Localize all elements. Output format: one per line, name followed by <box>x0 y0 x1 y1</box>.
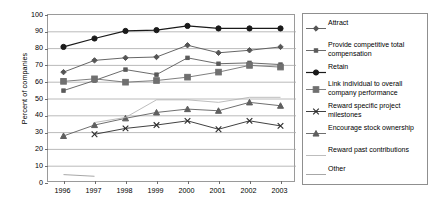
legend-item-label: Encourage stock ownership <box>327 124 414 133</box>
y-axis-tick-mark <box>45 116 48 117</box>
legend-item[interactable]: Reward past contributions <box>305 146 427 155</box>
data-point-marker <box>247 63 253 69</box>
y-axis-tick-label: 60 <box>21 78 43 85</box>
legend-item[interactable]: Provide competitive total compensation <box>305 41 427 58</box>
data-point-marker <box>62 89 65 92</box>
line-marker-icon <box>305 146 327 155</box>
y-axis-tick-label: 40 <box>21 111 43 118</box>
data-point-marker <box>154 54 159 59</box>
data-point-marker <box>216 126 222 132</box>
legend-item[interactable]: Attract <box>305 19 427 28</box>
data-point-marker <box>61 79 67 85</box>
y-axis-tick-label: 50 <box>21 95 43 102</box>
legend-item[interactable]: Other <box>305 165 427 174</box>
data-point-marker <box>313 70 318 75</box>
y-axis-tick-mark <box>45 133 48 134</box>
legend-item[interactable]: Encourage stock ownership <box>305 124 427 133</box>
data-point-marker <box>314 49 317 52</box>
line-marker-icon <box>305 165 327 174</box>
triangle-marker-icon <box>305 124 327 133</box>
chart-container: Percent of companies 0102030405060708090… <box>0 0 430 213</box>
x-axis-tick-mark <box>188 181 189 184</box>
y-axis-tick-label: 0 <box>21 179 43 186</box>
data-point-marker <box>216 50 221 55</box>
y-axis-tick-mark <box>45 49 48 50</box>
data-point-marker <box>217 62 220 65</box>
legend-item-label: Retain <box>327 63 348 72</box>
y-axis-tick-mark <box>45 183 48 184</box>
y-axis-tick-label: 90 <box>21 27 43 34</box>
x-axis-tick-mark <box>64 181 65 184</box>
x-axis-tick-label: 2003 <box>260 186 300 195</box>
x-axis-tick-mark <box>281 181 282 184</box>
y-axis-tick-label: 10 <box>21 162 43 169</box>
circle-marker-icon <box>305 63 327 72</box>
square-marker-icon <box>305 80 327 89</box>
y-axis-tick-mark <box>45 82 48 83</box>
y-axis-tick-label: 80 <box>21 44 43 51</box>
legend-item-label: Attract <box>327 19 348 28</box>
series-layer <box>48 15 296 183</box>
diamond-marker-icon <box>305 19 327 28</box>
x-axis-tick-mark <box>126 181 127 184</box>
data-point-marker <box>123 55 128 60</box>
y-axis-tick-mark <box>45 149 48 150</box>
data-point-marker <box>154 78 160 84</box>
y-axis-title: Percent of companies <box>20 19 29 159</box>
y-axis-tick-mark <box>45 166 48 167</box>
data-point-marker <box>123 79 129 85</box>
data-point-marker <box>185 43 190 48</box>
x-axis-tick-mark <box>250 181 251 184</box>
data-point-marker <box>216 69 222 75</box>
data-point-marker <box>61 133 67 139</box>
x-axis-tick-mark <box>157 181 158 184</box>
legend-item-label: Link individual to overall company perfo… <box>327 80 427 97</box>
data-point-marker <box>216 26 221 31</box>
legend-item[interactable]: Reward specific project milestones <box>305 102 427 119</box>
y-axis-tick-mark <box>45 15 48 16</box>
legend-item-label: Other <box>327 165 346 174</box>
legend-item-label: Provide competitive total compensation <box>327 41 427 58</box>
legend-item[interactable]: Link individual to overall company perfo… <box>305 80 427 97</box>
data-point-marker <box>61 44 66 49</box>
data-point-marker <box>92 36 97 41</box>
data-point-marker <box>313 26 318 31</box>
series-line <box>64 175 95 177</box>
gridlines <box>48 32 296 166</box>
data-point-marker <box>185 74 191 80</box>
x-axis-tick-mark <box>219 181 220 184</box>
data-point-marker <box>185 23 190 28</box>
y-axis-tick-mark <box>45 99 48 100</box>
data-series <box>61 43 283 75</box>
x-marker-icon <box>305 102 327 111</box>
plot-area <box>47 14 295 182</box>
data-series <box>92 118 284 137</box>
y-axis-tick-label: 20 <box>21 145 43 152</box>
legend-item-label: Reward specific project milestones <box>327 102 427 119</box>
legend-box: AttractProvide competitive total compens… <box>302 13 428 185</box>
data-point-marker <box>123 28 128 33</box>
square-small-marker-icon <box>305 41 327 50</box>
data-point-marker <box>186 56 189 59</box>
data-series-group <box>61 23 284 176</box>
legend-item[interactable]: Retain <box>305 63 427 72</box>
data-point-marker <box>155 73 158 76</box>
data-point-marker <box>61 69 66 74</box>
y-axis-tick-mark <box>45 65 48 66</box>
data-point-marker <box>278 26 283 31</box>
data-series <box>64 175 95 177</box>
y-axis-tick-mark <box>45 32 48 33</box>
y-axis-tick-label: 100 <box>21 11 43 18</box>
x-axis-tick-mark <box>95 181 96 184</box>
legend-item-label: Reward past contributions <box>327 146 409 155</box>
y-axis-tick-label: 30 <box>21 128 43 135</box>
data-point-marker <box>92 76 98 82</box>
data-series <box>61 23 283 49</box>
data-point-marker <box>247 26 252 31</box>
data-point-marker <box>124 68 127 71</box>
data-point-marker <box>313 87 319 93</box>
data-point-marker <box>154 28 159 33</box>
data-point-marker <box>92 58 97 63</box>
data-point-marker <box>278 64 284 70</box>
y-axis-tick-label: 70 <box>21 61 43 68</box>
